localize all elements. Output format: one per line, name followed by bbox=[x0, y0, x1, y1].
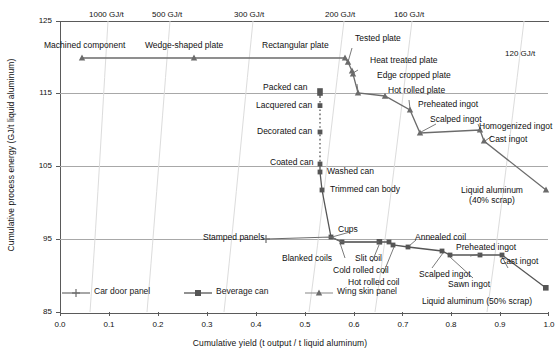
label-heat-treated-plate: Heat treated plate bbox=[370, 55, 438, 65]
iso-curve-500 bbox=[147, 21, 170, 312]
legend-swatch-beverage-can bbox=[182, 286, 214, 300]
label-stamped-panels: Stamped panels bbox=[203, 232, 264, 242]
chart-canvas: Cumulative process energy (GJ/t liquid a… bbox=[0, 0, 560, 357]
label-scalped-ingot-top: Scalped ingot bbox=[430, 114, 482, 124]
label-packed-can: Packed can bbox=[263, 82, 307, 92]
label-liquid-aluminum-40: Liquid aluminum (40% scrap) bbox=[455, 185, 529, 205]
iso-label-500: 500 GJ/t bbox=[152, 10, 182, 19]
label-washed-can: Washed can bbox=[327, 166, 374, 176]
label-scalped-ingot-bot: Scalped ingot bbox=[419, 269, 471, 279]
chart-legend: Car door panel Beverage can Wing skin pa… bbox=[60, 286, 360, 300]
legend-item-wing-skin-panel[interactable]: Wing skin panel bbox=[303, 286, 335, 300]
iso-label-160: 160 GJ/t bbox=[394, 10, 424, 19]
label-tested-plate: Tested plate bbox=[355, 33, 401, 43]
label-cups: Cups bbox=[338, 224, 358, 234]
label-cold-rolled-coil: Cold rolled coil bbox=[333, 265, 389, 275]
label-lacquered-can: Lacquered can bbox=[256, 100, 312, 110]
label-cast-ingot-bot: Cast ingot bbox=[500, 256, 538, 266]
label-cast-ingot-top: Cast ingot bbox=[489, 134, 527, 144]
series-wing-skin-panel bbox=[82, 58, 546, 190]
label-liquid-aluminum-50: Liquid aluminum (50% scrap) bbox=[422, 296, 532, 306]
legend-item-beverage-can[interactable]: Beverage can bbox=[182, 286, 214, 300]
iso-curve-300 bbox=[224, 21, 253, 312]
label-machined-component: Machined component bbox=[44, 40, 125, 50]
label-slit-coil: Slit coil bbox=[355, 253, 382, 263]
iso-label-200: 200 GJ/t bbox=[325, 10, 355, 19]
series-car-door-panel bbox=[262, 235, 379, 243]
label-preheated-ingot-top: Preheated ingot bbox=[418, 99, 478, 109]
label-homogenized-ingot: Homogenized ingot bbox=[479, 121, 552, 131]
iso-label-120: 120 GJ/t bbox=[505, 49, 535, 58]
label-preheated-ingot-bot: Preheated ingot bbox=[456, 242, 516, 252]
label-coated-can: Coated can bbox=[270, 157, 313, 167]
label-blanked-coils: Blanked coils bbox=[282, 253, 332, 263]
label-sawn-ingot: Sawn ingot bbox=[448, 279, 490, 289]
car-door-path bbox=[266, 237, 379, 242]
legend-item-car-door-panel[interactable]: Car door panel bbox=[60, 286, 92, 300]
wing-skin-path bbox=[82, 58, 546, 190]
legend-swatch-wing-skin-panel bbox=[303, 286, 335, 300]
label-trimmed-can-body: Trimmed can body bbox=[330, 184, 400, 194]
iso-label-1000: 1000 GJ/t bbox=[89, 10, 124, 19]
legend-label-car-door-panel: Car door panel bbox=[94, 286, 150, 296]
iso-label-300: 300 GJ/t bbox=[234, 10, 264, 19]
label-hot-rolled-plate: Hot rolled plate bbox=[388, 85, 445, 95]
label-rectangular-plate: Rectangular plate bbox=[262, 40, 329, 50]
label-decorated-can: Decorated can bbox=[257, 126, 312, 136]
legend-swatch-car-door-panel bbox=[60, 286, 92, 300]
legend-label-beverage-can: Beverage can bbox=[216, 286, 268, 296]
label-edge-cropped-plate: Edge cropped plate bbox=[377, 70, 451, 80]
iso-curve-1000 bbox=[90, 21, 108, 312]
legend-label-wing-skin-panel: Wing skin panel bbox=[337, 286, 397, 296]
label-annealed-coil: Annealed coil bbox=[415, 232, 466, 242]
iso-curve-120 bbox=[487, 21, 524, 312]
label-wedge-shaped-plate: Wedge-shaped plate bbox=[145, 40, 223, 50]
